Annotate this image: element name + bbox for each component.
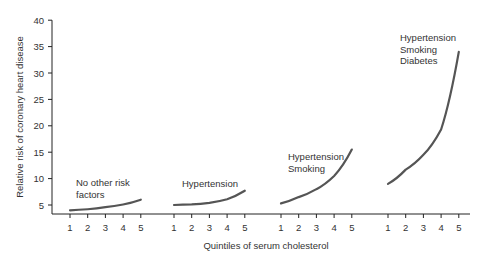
x-tick-label: 2: [189, 222, 194, 233]
series-label: Smoking: [288, 163, 325, 174]
series-line: [388, 52, 459, 184]
y-tick-label: 10: [33, 173, 44, 184]
y-tick-label: 5: [39, 200, 44, 211]
x-axis: 12345123451234512345: [52, 214, 470, 233]
series-4: HypertensionSmokingDiabetes: [388, 32, 459, 184]
y-tick-label: 35: [33, 41, 44, 52]
x-tick-label: 1: [171, 222, 176, 233]
x-tick-label: 1: [385, 222, 390, 233]
x-tick-label: 1: [67, 222, 72, 233]
x-tick-label: 2: [403, 222, 408, 233]
y-tick-label: 25: [33, 94, 44, 105]
series-label: No other risk: [76, 177, 130, 188]
x-tick-label: 2: [85, 222, 90, 233]
x-tick-label: 4: [438, 222, 443, 233]
series-label: Hypertension: [182, 178, 238, 189]
x-axis-label: Quintiles of serum cholesterol: [203, 240, 328, 251]
x-tick-label: 5: [349, 222, 354, 233]
y-tick-label: 20: [33, 120, 44, 131]
x-tick-label: 5: [138, 222, 143, 233]
series-label: factors: [76, 189, 105, 200]
x-tick-label: 4: [224, 222, 229, 233]
x-tick-label: 5: [242, 222, 247, 233]
series-2: Hypertension: [174, 178, 245, 205]
x-tick-label: 4: [331, 222, 336, 233]
y-tick-label: 30: [33, 68, 44, 79]
x-tick-label: 2: [296, 222, 301, 233]
series-group: No other riskfactorsHypertensionHyperten…: [70, 32, 459, 210]
y-axis-label: Relative risk of coronary heart disease: [14, 36, 25, 198]
x-tick-label: 3: [421, 222, 426, 233]
x-tick-label: 1: [278, 222, 283, 233]
x-tick-label: 3: [207, 222, 212, 233]
series-label: Diabetes: [400, 55, 438, 66]
series-label: Hypertension: [400, 32, 456, 43]
series-3: HypertensionSmoking: [281, 150, 352, 204]
series-label: Smoking: [400, 44, 437, 55]
x-tick-label: 4: [120, 222, 125, 233]
series-1: No other riskfactors: [70, 177, 141, 210]
series-label: Hypertension: [288, 151, 344, 162]
y-tick-label: 15: [33, 147, 44, 158]
line-chart: 510152025303540 12345123451234512345 No …: [0, 0, 490, 260]
x-tick-label: 3: [314, 222, 319, 233]
y-tick-label: 40: [33, 15, 44, 26]
series-line: [70, 200, 141, 211]
x-tick-label: 5: [456, 222, 461, 233]
x-tick-label: 3: [103, 222, 108, 233]
series-line: [174, 191, 245, 205]
y-axis: 510152025303540: [33, 15, 52, 214]
